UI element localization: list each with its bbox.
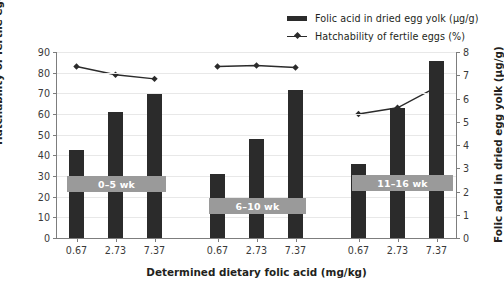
y-axis-right-tick (456, 238, 460, 239)
y-axis-left-tick-label: 40 (38, 150, 50, 161)
legend-label-hatchability: Hatchability of fertile eggs (%) (315, 31, 465, 42)
phase-band: 6–10 wk (209, 198, 306, 214)
x-axis-tick (398, 238, 399, 242)
y-axis-left-title: Hatchability of fertile eggs (%) (0, 0, 4, 145)
y-axis-left-tick (53, 93, 57, 94)
line-marker-diamond (214, 63, 220, 69)
bar (390, 108, 405, 238)
y-axis-right-tick-label: 5 (463, 116, 469, 127)
legend-label-folic-acid: Folic acid in dried egg yolk (µg/g) (315, 13, 479, 24)
y-axis-right-tick (456, 52, 460, 53)
y-axis-right-tick-label: 7 (463, 70, 469, 81)
y-axis-right-tick-label: 6 (463, 93, 469, 104)
y-axis-left-tick (53, 73, 57, 74)
bar (249, 139, 264, 238)
y-axis-left-tick-label: 90 (38, 47, 50, 58)
y-axis-left-tick-label: 70 (38, 88, 50, 99)
y-axis-left-tick-label: 50 (38, 129, 50, 140)
y-axis-right-tick-label: 4 (463, 140, 469, 151)
y-axis-left-tick (53, 135, 57, 136)
y-axis-right-tick (456, 168, 460, 169)
gridline (57, 73, 456, 74)
x-axis-tick (437, 238, 438, 242)
x-axis-tick (359, 238, 360, 242)
gridline (57, 93, 456, 94)
phase-band: 0–5 wk (67, 176, 166, 192)
phase-band-label: 6–10 wk (236, 201, 280, 212)
y-axis-left-tick (53, 155, 57, 156)
x-axis-tick-label: 0.67 (207, 245, 228, 256)
line-marker-diamond (73, 63, 79, 69)
y-axis-right-tick (456, 75, 460, 76)
y-axis-left-tick (53, 52, 57, 53)
bar (288, 90, 303, 238)
x-axis-tick (296, 238, 297, 242)
gridline (57, 52, 456, 53)
y-axis-left-tick (53, 217, 57, 218)
y-axis-left-tick-label: 30 (38, 171, 50, 182)
x-axis-tick (257, 238, 258, 242)
x-axis-tick-label: 2.73 (387, 245, 408, 256)
y-axis-right-tick-label: 3 (463, 163, 469, 174)
y-axis-right-tick (456, 122, 460, 123)
phase-band-label: 11–16 wk (377, 178, 428, 189)
x-axis-title: Determined dietary folic acid (mg/kg) (57, 266, 456, 278)
x-axis-tick-label: 7.37 (285, 245, 306, 256)
y-axis-left-tick (53, 238, 57, 239)
bar (147, 94, 162, 238)
line-marker-diamond (253, 62, 259, 68)
phase-band-label: 0–5 wk (98, 179, 135, 190)
plot-area: 01020304050607080900123456780.672.737.37… (57, 52, 456, 238)
y-axis-right-tick-label: 1 (463, 209, 469, 220)
y-axis-right-title: Folic acid in dried egg yolk (µg/g) (492, 46, 504, 243)
x-axis-tick-label: 7.37 (426, 245, 447, 256)
y-axis-right-tick-label: 0 (463, 233, 469, 244)
bar (69, 150, 84, 238)
x-axis-tick-label: 2.73 (246, 245, 267, 256)
x-axis-tick (116, 238, 117, 242)
y-axis-left-tick (53, 114, 57, 115)
x-axis-tick (218, 238, 219, 242)
bar (429, 61, 444, 238)
y-axis-left-tick-label: 80 (38, 67, 50, 78)
y-axis-left-tick-label: 60 (38, 109, 50, 120)
y-axis-right-tick-label: 2 (463, 186, 469, 197)
x-axis-tick (155, 238, 156, 242)
y-axis-right-tick (456, 99, 460, 100)
chart-legend: Folic acid in dried egg yolk (µg/g) Hatc… (286, 10, 496, 46)
x-axis-tick (77, 238, 78, 242)
x-axis-tick-label: 0.67 (348, 245, 369, 256)
legend-bar-swatch-icon (286, 10, 308, 26)
y-axis-left-tick (53, 197, 57, 198)
legend-item-hatchability: Hatchability of fertile eggs (%) (286, 28, 496, 44)
y-axis-right-tick (456, 192, 460, 193)
y-axis-right-tick (456, 215, 460, 216)
x-axis-tick-label: 7.37 (144, 245, 165, 256)
line-marker-diamond (151, 76, 157, 82)
legend-item-folic-acid: Folic acid in dried egg yolk (µg/g) (286, 10, 496, 26)
y-axis-right-tick-label: 8 (463, 47, 469, 58)
y-axis-left-tick-label: 10 (38, 212, 50, 223)
phase-band: 11–16 wk (352, 175, 453, 191)
x-axis-tick-label: 2.73 (105, 245, 126, 256)
y-axis-left-tick-label: 0 (44, 233, 50, 244)
legend-line-diamond-swatch-icon (286, 28, 308, 44)
y-axis-left-tick (53, 176, 57, 177)
line-marker-diamond (292, 64, 298, 70)
y-axis-left-tick-label: 20 (38, 191, 50, 202)
x-axis-tick-label: 0.67 (66, 245, 87, 256)
y-axis-right-tick (456, 145, 460, 146)
